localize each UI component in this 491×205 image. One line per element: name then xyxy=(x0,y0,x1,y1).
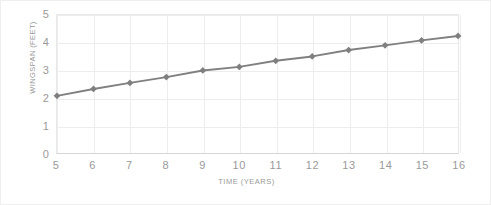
data-point-marker xyxy=(127,80,134,87)
x-axis-tick: 13 xyxy=(329,159,369,171)
series-line xyxy=(57,36,458,96)
data-point-marker xyxy=(272,57,279,64)
plot-area xyxy=(56,14,459,154)
x-axis-tick: 6 xyxy=(73,159,113,171)
y-axis-tick-labels: 5 4 3 2 1 0 xyxy=(1,1,49,205)
x-axis-tick: 14 xyxy=(366,159,406,171)
data-point-marker xyxy=(163,74,170,81)
data-point-marker xyxy=(90,86,97,93)
y-axis-title: WINGSPAN (FEET) xyxy=(28,3,37,113)
x-axis-tick: 12 xyxy=(292,159,332,171)
x-axis-tick: 16 xyxy=(439,159,479,171)
y-axis-tick: 1 xyxy=(7,121,49,132)
x-axis-tick: 10 xyxy=(219,159,259,171)
data-point-marker xyxy=(199,67,206,74)
data-point-marker xyxy=(236,64,243,71)
data-series-line xyxy=(57,15,458,153)
x-axis-title: TIME (YEARS) xyxy=(1,177,491,186)
x-axis-tick: 9 xyxy=(183,159,223,171)
x-axis-tick: 5 xyxy=(36,159,76,171)
x-axis-tick: 7 xyxy=(109,159,149,171)
x-axis-tick: 15 xyxy=(402,159,442,171)
x-axis-tick: 11 xyxy=(256,159,296,171)
x-axis-tick: 8 xyxy=(146,159,186,171)
chart-container: 5 4 3 2 1 0 WINGSPAN (FEET) 567891011121… xyxy=(0,0,491,205)
data-point-marker xyxy=(309,53,316,60)
data-point-marker xyxy=(345,47,352,54)
data-point-marker xyxy=(382,42,389,49)
data-point-marker xyxy=(54,93,61,100)
data-point-marker xyxy=(418,37,425,44)
